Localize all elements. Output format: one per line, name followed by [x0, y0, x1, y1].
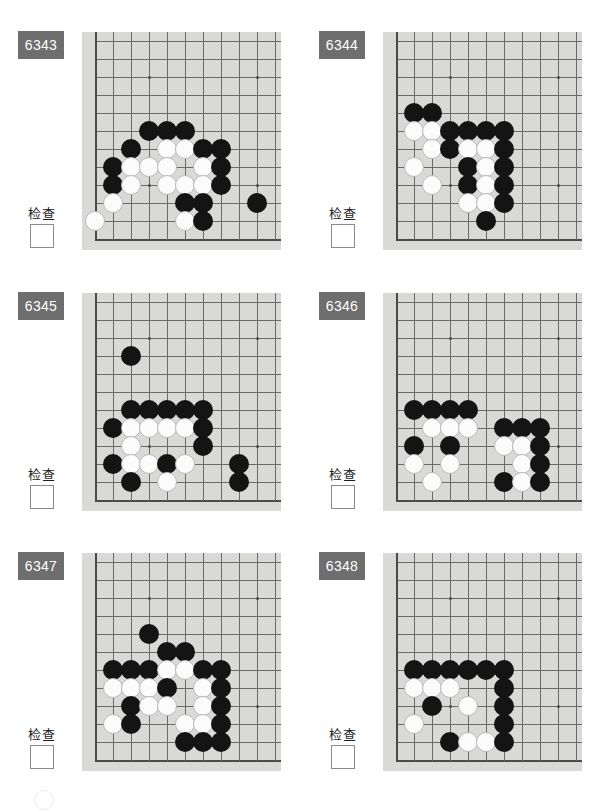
black-stone[interactable] [193, 418, 213, 438]
black-stone[interactable] [440, 139, 460, 159]
white-stone[interactable] [157, 157, 177, 177]
black-stone[interactable] [193, 732, 213, 752]
black-stone[interactable] [404, 400, 424, 420]
white-stone[interactable] [404, 121, 424, 141]
black-stone[interactable] [211, 660, 231, 680]
black-stone[interactable] [404, 436, 424, 456]
white-stone[interactable] [121, 678, 141, 698]
check-checkbox[interactable] [331, 745, 355, 769]
black-stone[interactable] [476, 660, 496, 680]
white-stone[interactable] [440, 678, 460, 698]
black-stone[interactable] [530, 436, 550, 456]
white-stone[interactable] [175, 418, 195, 438]
white-stone[interactable] [121, 436, 141, 456]
white-stone[interactable] [139, 678, 159, 698]
white-stone[interactable] [193, 696, 213, 716]
black-stone[interactable] [494, 139, 514, 159]
black-stone[interactable] [494, 472, 514, 492]
white-stone[interactable] [121, 418, 141, 438]
white-stone[interactable] [440, 418, 460, 438]
black-stone[interactable] [175, 732, 195, 752]
black-stone[interactable] [103, 454, 123, 474]
black-stone[interactable] [458, 121, 478, 141]
black-stone[interactable] [211, 157, 231, 177]
black-stone[interactable] [494, 418, 514, 438]
black-stone[interactable] [121, 696, 141, 716]
white-stone[interactable] [476, 193, 496, 213]
white-stone[interactable] [139, 696, 159, 716]
black-stone[interactable] [404, 103, 424, 123]
black-stone[interactable] [103, 418, 123, 438]
black-stone[interactable] [440, 436, 460, 456]
white-stone[interactable] [175, 660, 195, 680]
white-stone[interactable] [512, 472, 532, 492]
white-stone[interactable] [458, 193, 478, 213]
black-stone[interactable] [157, 678, 177, 698]
white-stone[interactable] [157, 139, 177, 159]
white-stone[interactable] [404, 678, 424, 698]
black-stone[interactable] [157, 642, 177, 662]
white-stone[interactable] [404, 454, 424, 474]
white-stone[interactable] [193, 175, 213, 195]
black-stone[interactable] [139, 121, 159, 141]
white-stone[interactable] [422, 121, 442, 141]
black-stone[interactable] [175, 400, 195, 420]
black-stone[interactable] [157, 121, 177, 141]
white-stone[interactable] [175, 454, 195, 474]
go-board[interactable] [383, 553, 582, 771]
black-stone[interactable] [175, 642, 195, 662]
black-stone[interactable] [193, 193, 213, 213]
white-stone[interactable] [458, 418, 478, 438]
black-stone[interactable] [193, 660, 213, 680]
white-stone[interactable] [139, 157, 159, 177]
black-stone[interactable] [494, 732, 514, 752]
black-stone[interactable] [211, 696, 231, 716]
check-checkbox[interactable] [30, 745, 54, 769]
black-stone[interactable] [530, 418, 550, 438]
black-stone[interactable] [458, 175, 478, 195]
white-stone[interactable] [157, 660, 177, 680]
black-stone[interactable] [458, 157, 478, 177]
black-stone[interactable] [121, 714, 141, 734]
white-stone[interactable] [121, 157, 141, 177]
black-stone[interactable] [175, 121, 195, 141]
black-stone[interactable] [440, 732, 460, 752]
black-stone[interactable] [193, 211, 213, 231]
white-stone[interactable] [422, 678, 442, 698]
go-board[interactable] [383, 32, 582, 250]
black-stone[interactable] [494, 121, 514, 141]
black-stone[interactable] [211, 714, 231, 734]
white-stone[interactable] [476, 139, 496, 159]
black-stone[interactable] [530, 454, 550, 474]
white-stone[interactable] [157, 696, 177, 716]
black-stone[interactable] [211, 732, 231, 752]
black-stone[interactable] [211, 175, 231, 195]
check-checkbox[interactable] [331, 485, 355, 509]
white-stone[interactable] [139, 454, 159, 474]
black-stone[interactable] [440, 400, 460, 420]
white-stone[interactable] [512, 454, 532, 474]
black-stone[interactable] [422, 660, 442, 680]
white-stone[interactable] [440, 454, 460, 474]
black-stone[interactable] [157, 400, 177, 420]
black-stone[interactable] [512, 418, 532, 438]
white-stone[interactable] [404, 714, 424, 734]
black-stone[interactable] [247, 193, 267, 213]
black-stone[interactable] [494, 660, 514, 680]
black-stone[interactable] [458, 660, 478, 680]
white-stone[interactable] [458, 732, 478, 752]
black-stone[interactable] [121, 346, 141, 366]
white-stone[interactable] [422, 139, 442, 159]
check-checkbox[interactable] [30, 224, 54, 248]
black-stone[interactable] [121, 472, 141, 492]
white-stone[interactable] [422, 472, 442, 492]
white-stone[interactable] [103, 714, 123, 734]
white-stone[interactable] [193, 157, 213, 177]
black-stone[interactable] [476, 121, 496, 141]
black-stone[interactable] [530, 472, 550, 492]
black-stone[interactable] [193, 139, 213, 159]
go-board[interactable] [82, 553, 281, 771]
white-stone[interactable] [175, 175, 195, 195]
black-stone[interactable] [211, 139, 231, 159]
black-stone[interactable] [193, 400, 213, 420]
